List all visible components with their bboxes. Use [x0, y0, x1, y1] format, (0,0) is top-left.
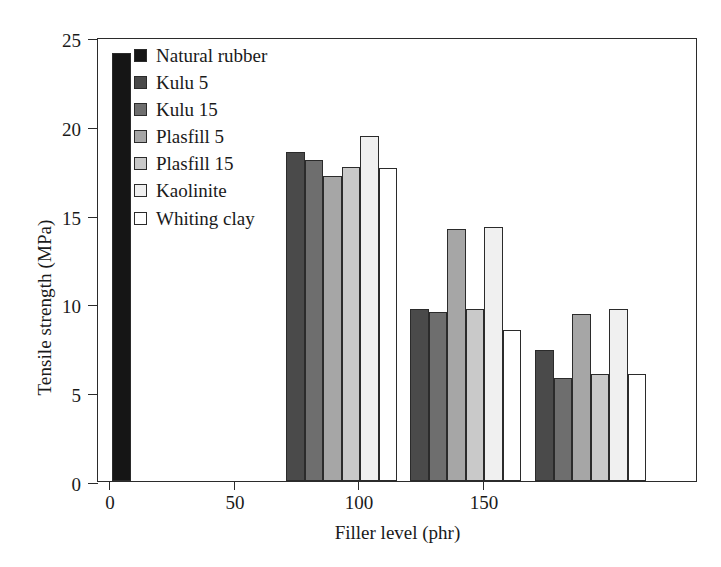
legend-item-label: Natural rubber: [156, 46, 267, 65]
legend-swatch-icon: [134, 49, 147, 62]
bar: [503, 330, 522, 481]
legend-item: Kulu 5: [134, 70, 267, 94]
x-axis-tick-label: 50: [226, 493, 245, 512]
bar: [410, 309, 429, 481]
legend-item-label: Whiting clay: [156, 209, 255, 228]
bar: [484, 227, 503, 481]
y-axis-tick: 20: [88, 128, 98, 129]
y-axis-tick-label: 15: [62, 208, 88, 227]
y-axis-tick-label: 25: [62, 31, 88, 50]
legend-item: Whiting clay: [134, 206, 267, 230]
y-axis-tick-label: 20: [62, 119, 88, 138]
y-axis-tick: 25: [88, 39, 98, 40]
legend-item: Natural rubber: [134, 43, 267, 67]
y-axis-tick: 15: [88, 217, 98, 218]
bar: [342, 167, 361, 481]
x-axis-tick-label: 0: [105, 493, 115, 512]
legend-item: Kaolinite: [134, 179, 267, 203]
y-axis-tick-label: 5: [72, 386, 89, 405]
x-axis-tick-label: 150: [470, 493, 499, 512]
bar: [286, 152, 305, 481]
bar: [447, 229, 466, 481]
y-axis-title: Tensile strength (MPa): [30, 0, 60, 567]
legend-item-label: Kaolinite: [156, 181, 227, 200]
x-axis-title: Filler level (phr): [97, 522, 698, 544]
x-axis-tick: 0: [109, 481, 110, 490]
x-axis-tick: 100: [358, 481, 359, 490]
legend-item-label: Plasfill 5: [156, 127, 224, 146]
legend-item: Kulu 15: [134, 97, 267, 121]
bar: [535, 350, 554, 481]
bar: [591, 374, 610, 481]
y-axis-tick-label: 0: [72, 475, 89, 494]
legend-swatch-icon: [134, 76, 147, 89]
legend-swatch-icon: [134, 103, 147, 116]
y-axis-tick: 10: [88, 305, 98, 306]
legend-swatch-icon: [134, 157, 147, 170]
bar: [628, 374, 647, 481]
bar: [112, 53, 131, 481]
bar: [323, 176, 342, 481]
legend-swatch-icon: [134, 184, 147, 197]
x-axis-tick: 150: [483, 481, 484, 490]
y-axis-tick: 0: [88, 483, 98, 484]
legend-item-label: Kulu 15: [156, 100, 218, 119]
y-axis-tick: 5: [88, 394, 98, 395]
legend-item: Plasfill 15: [134, 152, 267, 176]
x-axis-tick: 50: [234, 481, 235, 490]
bar: [554, 378, 573, 481]
bar: [360, 136, 379, 481]
y-axis-title-text: Tensile strength (MPa): [34, 219, 56, 395]
tensile-strength-bar-chart: Tensile strength (MPa) Filler level (phr…: [0, 0, 721, 567]
bar: [572, 314, 591, 481]
bar: [379, 168, 398, 481]
legend: Natural rubberKulu 5Kulu 15Plasfill 5Pla…: [134, 43, 267, 230]
plot-area: 0510152025 050100150 Natural rubberKulu …: [97, 38, 697, 482]
legend-swatch-icon: [134, 130, 147, 143]
legend-item-label: Plasfill 15: [156, 154, 234, 173]
legend-swatch-icon: [134, 212, 147, 225]
bar: [466, 309, 485, 481]
y-axis-tick-label: 10: [62, 297, 88, 316]
x-axis-tick-label: 100: [345, 493, 374, 512]
legend-item-label: Kulu 5: [156, 73, 208, 92]
bar: [429, 312, 448, 481]
legend-item: Plasfill 5: [134, 125, 267, 149]
bar: [305, 160, 324, 481]
bar: [609, 309, 628, 481]
